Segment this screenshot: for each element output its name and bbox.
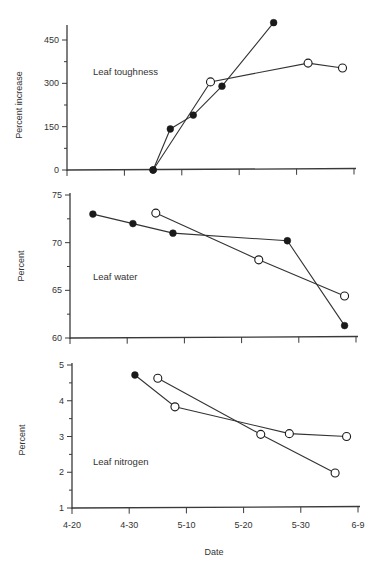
x-axis	[70, 337, 358, 339]
series-line-open	[153, 63, 342, 170]
y-tick-label: 60	[52, 333, 62, 343]
x-axis	[72, 507, 360, 509]
data-point-filled	[190, 112, 197, 119]
y-axis-label: Percent	[16, 250, 26, 282]
data-point-filled	[341, 322, 348, 329]
series-line-open	[156, 213, 345, 296]
data-point-filled	[130, 220, 137, 227]
x-tick-label: 6-9	[351, 520, 364, 530]
panel-leaf-toughness: Leaf toughness Percent increase 01503004…	[14, 19, 356, 176]
data-point-open	[207, 78, 215, 86]
figure: Leaf toughness Percent increase 01503004…	[0, 0, 377, 561]
panel-title: Leaf water	[93, 271, 137, 282]
series-line-filled	[93, 214, 345, 326]
x-tick-label: 4-20	[63, 520, 81, 530]
y-tick-label: 5	[59, 360, 64, 370]
y-tick-label: 300	[44, 78, 59, 88]
data-point-open	[341, 292, 349, 300]
data-point-open	[304, 59, 312, 67]
data-point-filled	[89, 211, 96, 218]
y-tick-label: 150	[44, 122, 59, 132]
data-point-filled-start	[285, 430, 293, 438]
data-point-filled-start	[343, 433, 351, 441]
data-point-filled	[219, 83, 226, 90]
y-axis-label: Percent	[17, 424, 27, 456]
data-point-open	[152, 209, 160, 217]
x-axis	[67, 169, 356, 171]
y-tick-label: 450	[44, 35, 59, 45]
data-point-filled-start	[132, 372, 139, 379]
data-point-filled	[167, 126, 174, 133]
x-axis-label: Date	[204, 547, 223, 557]
x-tick-label: 5-10	[177, 520, 195, 530]
data-point-open	[150, 167, 157, 174]
x-tick-label: 5-20	[235, 520, 253, 530]
data-point-filled-start	[171, 403, 179, 411]
y-tick-label: 65	[52, 285, 62, 295]
y-tick-label: 70	[52, 238, 62, 248]
data-point-filled	[284, 237, 291, 244]
series-line-filled	[153, 23, 274, 170]
data-point-open	[331, 469, 339, 477]
x-tick-label: 5-30	[292, 520, 310, 530]
y-tick-label: 0	[54, 165, 59, 175]
x-tick-label: 4-30	[120, 520, 138, 530]
series-line-open	[158, 378, 335, 473]
panel-title: Leaf toughness	[93, 66, 158, 77]
series-line-filled-start	[135, 375, 347, 437]
y-axis-label: Percent increase	[14, 71, 24, 139]
data-point-open	[255, 256, 263, 264]
data-point-open	[154, 374, 162, 382]
panel-leaf-water: Leaf water Percent 60657075	[16, 190, 358, 344]
panel-title: Leaf nitrogen	[93, 456, 148, 467]
panel-leaf-nitrogen: Leaf nitrogen Percent Date 123454-204-30…	[17, 360, 365, 557]
data-point-filled	[270, 19, 277, 26]
y-tick-label: 4	[59, 396, 64, 406]
y-tick-label: 2	[59, 467, 64, 477]
data-point-filled	[170, 230, 177, 237]
y-tick-label: 3	[59, 432, 64, 442]
y-tick-label: 1	[59, 503, 64, 513]
data-point-open	[257, 430, 265, 438]
y-tick-label: 75	[52, 190, 62, 200]
data-point-open	[339, 64, 347, 72]
